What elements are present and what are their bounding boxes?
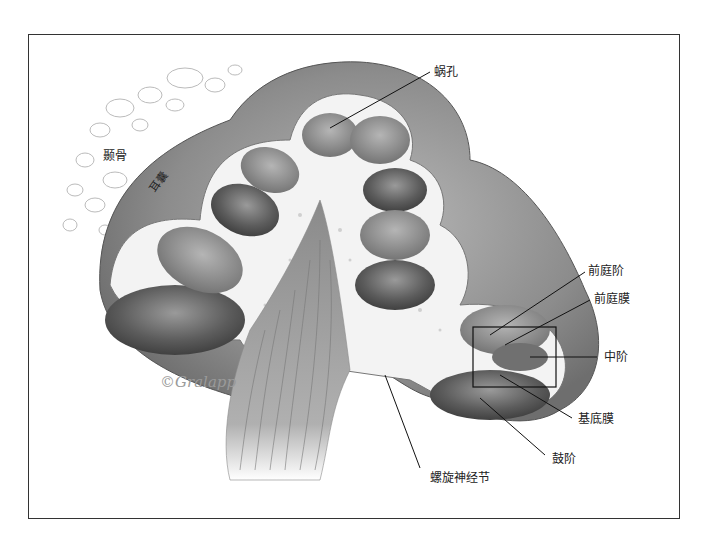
label-temporal-bone: 颞骨 — [103, 150, 127, 162]
artist-signature: ©Gralapp — [160, 373, 236, 391]
scala-tympani-upper-right — [355, 260, 435, 310]
label-basilar-membrane: 基底膜 — [578, 413, 614, 425]
label-helicotrema: 蜗孔 — [434, 66, 458, 78]
label-scala-media: 中阶 — [604, 351, 628, 363]
scala-tympani-basal-left — [105, 285, 245, 355]
scala-tympani-basal-right — [430, 370, 550, 420]
label-scala-vestibuli: 前庭阶 — [588, 265, 624, 277]
label-spiral-ganglion: 螺旋神经节 — [430, 472, 490, 484]
label-scala-tympani: 鼓阶 — [552, 453, 576, 465]
label-vestibular-membrane: 前庭膜 — [594, 293, 630, 305]
scala-vestibuli-apical-right — [350, 116, 410, 164]
scala-vestibuli-middle-right — [360, 210, 430, 260]
apical-turn — [302, 113, 358, 157]
scala-tympani-middle-right — [363, 168, 427, 212]
